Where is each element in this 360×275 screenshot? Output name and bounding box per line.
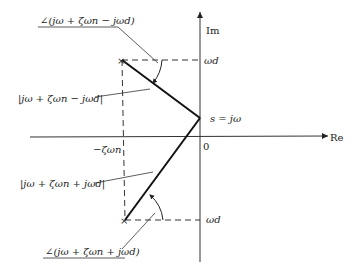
real-axis	[30, 136, 328, 137]
dashed-neg-zeta-omega-n	[122, 60, 125, 220]
angle-arc-upper	[153, 60, 162, 83]
test-point-label: s = jω	[210, 113, 241, 124]
real-axis-label: Re	[330, 132, 344, 143]
pole-upper-marker: ×	[117, 55, 125, 66]
omega-d-lower-label: ωd	[206, 214, 221, 225]
angle-label-upper: ∠(jω + ζωn − jωd)	[40, 15, 135, 26]
imag-axis-label: Im	[206, 25, 220, 36]
pole-lower-marker: ×	[120, 215, 128, 226]
magnitude-label-lower: |jω + ζωn + jωd|	[20, 178, 105, 190]
neg-zeta-omega-n-label: −ζωn	[93, 144, 121, 155]
s-plane-diagram: × × ∠(jω + ζωn − jωd) |jω + ζωn − jωd| −…	[0, 0, 360, 275]
magnitude-label-upper: |jω + ζωn − jωd|	[18, 93, 103, 105]
origin-label: 0	[203, 141, 209, 152]
omega-d-upper-label: ωd	[204, 55, 219, 66]
vector-lower	[125, 118, 200, 220]
angle-label-lower: ∠(jω + ζωn + jωd)	[45, 246, 140, 257]
